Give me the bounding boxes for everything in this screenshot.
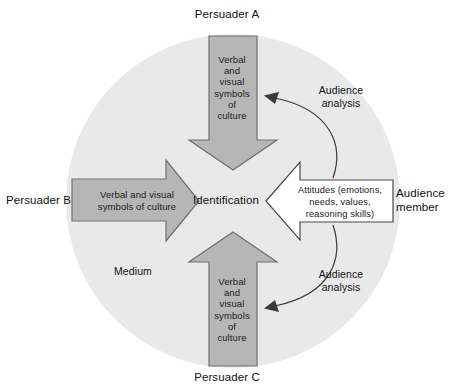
message-persuader-b: Verbal and visual symbols of culture [82,189,192,214]
label-identification: Identification [178,194,274,208]
message-persuader-c: Verbal and visual symbols of culture [196,276,268,343]
label-audience-analysis-bottom: Audience analysis [299,268,383,294]
message-audience-member: Attitudes (emotions, needs, values, reas… [288,184,392,220]
label-audience-member: Audience member [396,186,454,214]
label-persuader-c: Persuader C [0,371,454,385]
label-persuader-b: Persuader B [6,194,72,208]
label-medium: Medium [103,265,163,277]
label-audience-analysis-top: Audience analysis [299,84,383,110]
persuasion-model-diagram: Persuader A Persuader B Persuader C Audi… [0,0,454,392]
label-persuader-a: Persuader A [0,8,454,22]
message-persuader-a: Verbal and visual symbols of culture [196,54,268,121]
